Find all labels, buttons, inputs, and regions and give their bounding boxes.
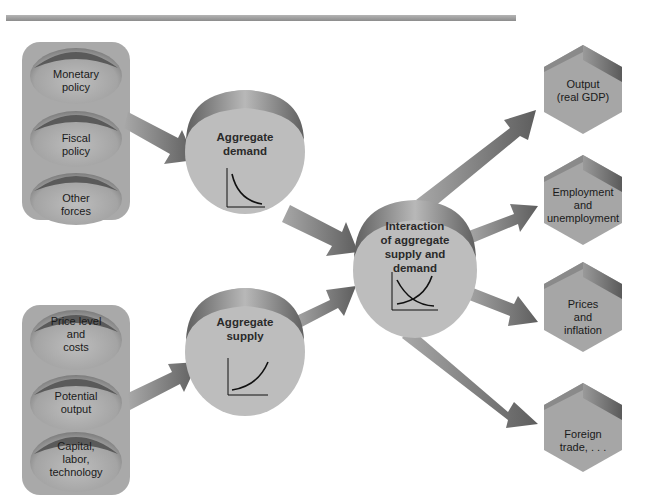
arrow-to-employment xyxy=(466,204,538,244)
arrow-as-to-interaction xyxy=(292,286,356,330)
label-price-level-costs: Price levelandcosts xyxy=(36,315,116,354)
label-aggregate-supply: Aggregatesupply xyxy=(200,315,290,343)
arrow-demand-inputs-to-ad xyxy=(124,112,195,164)
label-foreign-trade: Foreigntrade, . . . xyxy=(542,428,624,454)
label-monetary-policy: Monetarypolicy xyxy=(36,68,116,94)
arrow-to-output xyxy=(416,110,536,212)
label-prices-inflation: Pricesandinflation xyxy=(542,298,624,337)
label-capital-labor-technology: Capital,labor,technology xyxy=(32,440,120,479)
label-employment-unemployment: Employmentandunemployment xyxy=(536,186,630,225)
arrow-to-foreign-trade xyxy=(402,328,538,428)
label-potential-output: Potentialoutput xyxy=(36,390,116,416)
label-fiscal-policy: Fiscalpolicy xyxy=(36,132,116,158)
label-aggregate-demand: Aggregatedemand xyxy=(200,130,290,158)
node-aggregate-supply xyxy=(185,288,305,416)
arrow-ad-to-interaction xyxy=(282,205,358,256)
arrow-to-prices xyxy=(464,286,538,326)
label-other-forces: Otherforces xyxy=(36,192,116,218)
label-interaction: Interactionof aggregatesupply anddemand xyxy=(365,219,465,275)
label-output-real-gdp: Output(real GDP) xyxy=(542,78,624,104)
